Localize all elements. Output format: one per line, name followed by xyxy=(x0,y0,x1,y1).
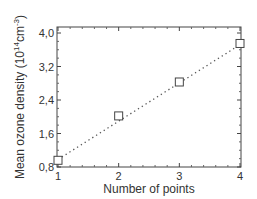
x-tick-label: 3 xyxy=(176,170,182,182)
y-tick-label: 3,2 xyxy=(39,61,54,73)
y-tick-label: 1,6 xyxy=(39,128,54,140)
x-tick-label: 2 xyxy=(116,170,122,182)
fit-line xyxy=(58,45,240,160)
data-point-marker xyxy=(115,112,123,120)
x-tick-label: 4 xyxy=(237,170,243,182)
data-point-marker xyxy=(175,78,183,86)
y-axis-title: Mean ozone density (1014cm-3) xyxy=(12,15,27,179)
data-point-marker xyxy=(54,156,62,164)
plot-area: 0,81,62,43,24,01234Number of pointsMean … xyxy=(12,15,244,196)
plot-frame xyxy=(57,27,241,167)
data-point-marker xyxy=(236,39,244,47)
x-tick-label: 1 xyxy=(55,170,61,182)
y-tick-label: 2,4 xyxy=(39,94,54,106)
y-tick-label: 0,8 xyxy=(39,161,54,173)
y-tick-label: 4,0 xyxy=(39,27,54,39)
x-axis-title: Number of points xyxy=(103,182,194,196)
chart: 0,81,62,43,24,01234Number of pointsMean … xyxy=(0,0,257,199)
